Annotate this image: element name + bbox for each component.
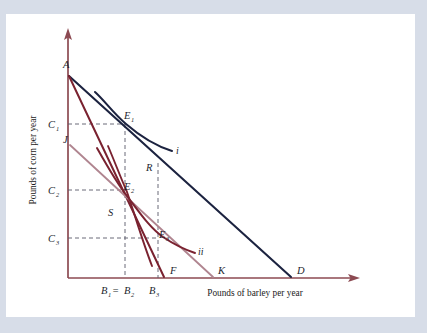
x-axis-title: Pounds of barley per year	[207, 288, 303, 298]
label-point-R: R	[145, 162, 153, 173]
svg-text:B: B	[101, 285, 108, 296]
label-point-A: A	[62, 59, 70, 70]
label-curve-i: i	[176, 145, 179, 156]
svg-text:1: 1	[56, 125, 59, 132]
label-point-F: F	[169, 265, 177, 276]
svg-text:2: 2	[131, 187, 135, 194]
label-point-S: S	[108, 207, 114, 218]
y-tick-c3: C 3	[48, 233, 59, 246]
x-tick-labels-group: B 1 = B 2 B 3	[101, 285, 159, 298]
budget-line-af	[69, 76, 164, 277]
svg-text:1: 1	[108, 291, 111, 298]
svg-text:3: 3	[55, 239, 59, 246]
svg-text:3: 3	[165, 235, 169, 242]
label-point-E3: E 3	[158, 229, 169, 242]
label-curve-ii: ii	[198, 246, 204, 257]
y-tick-c2: C 2	[48, 185, 60, 198]
y-axis-title: Pounds of corn per year	[28, 115, 38, 205]
label-point-K: K	[217, 265, 226, 276]
x-tick-b1-equals-b2: B 1 = B 2	[101, 285, 135, 298]
svg-text:C: C	[48, 233, 56, 244]
axes-group	[64, 28, 360, 282]
svg-text:1: 1	[131, 116, 134, 123]
svg-text:E: E	[123, 181, 131, 192]
svg-text:2: 2	[131, 291, 135, 298]
svg-text:C: C	[48, 119, 56, 130]
svg-text:B: B	[124, 285, 131, 296]
budget-line-jk	[70, 145, 213, 277]
svg-text:B: B	[149, 285, 156, 296]
y-tick-c1: C 1	[48, 119, 59, 132]
svg-text:C: C	[48, 185, 56, 196]
x-tick-b3: B 3	[149, 285, 159, 298]
svg-text:E: E	[123, 110, 131, 121]
svg-text:2: 2	[56, 191, 60, 198]
label-point-D: D	[296, 265, 305, 276]
y-tick-labels-group: C 1 C 2 C 3	[48, 119, 60, 246]
svg-text:=: =	[112, 285, 119, 296]
svg-text:E: E	[158, 229, 166, 240]
label-point-E1: E 1	[123, 110, 134, 123]
indifference-curve-figure: A D F J K R S E 1 E 2 E 3 i ii C 1	[0, 0, 427, 333]
dashed-guides-group	[68, 124, 158, 278]
point-labels-group: A D F J K R S E 1 E 2 E 3 i ii	[62, 59, 305, 276]
svg-text:3: 3	[155, 291, 159, 298]
